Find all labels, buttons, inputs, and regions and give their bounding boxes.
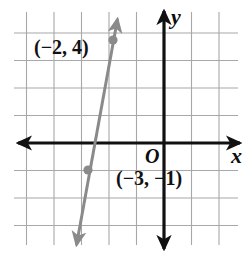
x-axis-label: x	[231, 145, 242, 167]
data-point-lower	[83, 165, 92, 174]
coordinate-plane-figure: (−2, 4) (−3, −1) y x O	[0, 0, 252, 261]
origin-label: O	[145, 146, 159, 166]
point-label-lower: (−3, −1)	[116, 168, 182, 188]
y-axis-label: y	[171, 6, 181, 28]
point-label-upper: (−2, 4)	[34, 37, 89, 57]
grid-lines-horizontal	[14, 33, 238, 226]
data-point-upper	[108, 35, 117, 44]
